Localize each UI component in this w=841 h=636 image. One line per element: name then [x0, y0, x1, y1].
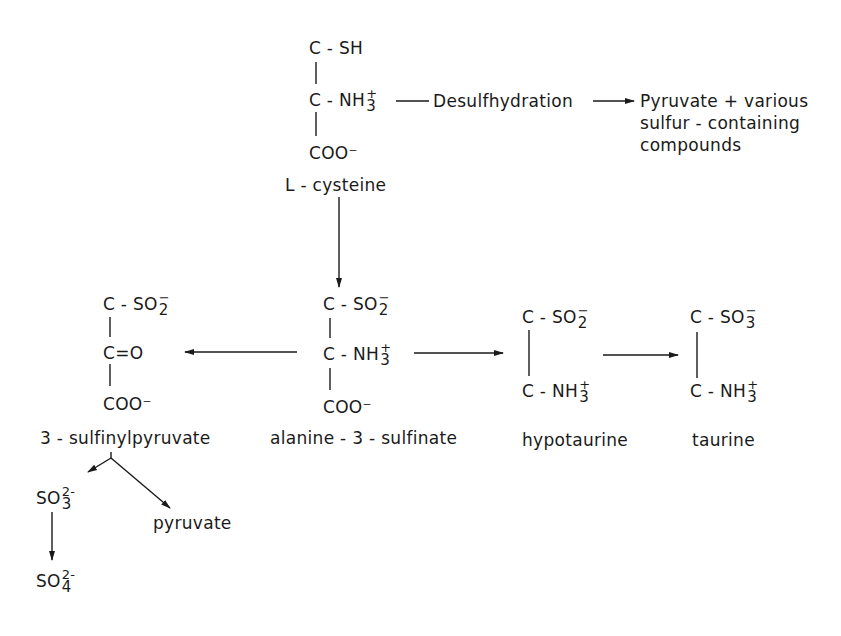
taurine-line1: C - SO−3 — [690, 306, 757, 330]
cysteine-line2: C - NH+3 — [309, 89, 377, 113]
ala-line1: C - SO−2 — [323, 293, 390, 317]
sp-line1: C - SO−2 — [103, 293, 170, 317]
cysteine-name: L - cysteine — [285, 175, 386, 195]
ala-line3: COO⁻ — [323, 397, 372, 417]
taurine-name: taurine — [692, 430, 755, 450]
arrow-sp-to-sulfite — [88, 458, 111, 472]
taurine-line2: C - NH+3 — [690, 380, 758, 404]
desulfhydration-label: Desulfhydration — [433, 91, 573, 111]
hypo-name: hypotaurine — [522, 430, 628, 450]
desulf-products-line3: compounds — [640, 135, 741, 155]
sp-line2: C=O — [103, 343, 143, 363]
desulf-products-line1: Pyruvate + various — [640, 91, 808, 111]
arrow-sp-to-pyruvate — [111, 458, 170, 508]
hypo-line1: C - SO−2 — [522, 306, 589, 330]
pyruvate: pyruvate — [153, 513, 232, 533]
ala-name: alanine - 3 - sulfinate — [270, 428, 457, 448]
sp-name: 3 - sulfinylpyruvate — [40, 428, 211, 448]
ala-line2: C - NH+3 — [323, 343, 391, 367]
hypo-line2: C - NH+3 — [522, 380, 590, 404]
sulfate: SO2-4 — [36, 570, 75, 594]
sp-line3: COO⁻ — [103, 394, 152, 414]
desulf-products-line2: sulfur - containing — [640, 113, 800, 133]
cysteine-line1: C - SH — [309, 38, 363, 58]
sulfite: SO2-3 — [36, 487, 75, 511]
cysteine-line3: COO⁻ — [309, 143, 358, 163]
